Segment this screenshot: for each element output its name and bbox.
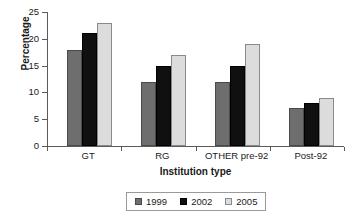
y-axis-tick-label: 20 — [28, 33, 39, 44]
y-axis-tick-label: 5 — [34, 113, 39, 124]
x-axis-tick — [47, 147, 48, 151]
bar — [245, 44, 260, 146]
bar — [67, 50, 82, 146]
bar — [289, 108, 304, 146]
y-axis-tick-label: 0 — [34, 140, 39, 151]
x-axis-category-label: GT — [82, 150, 95, 161]
y-axis-tick: 25 — [42, 12, 47, 13]
legend-entry[interactable]: 2005 — [225, 196, 257, 207]
bar — [215, 82, 230, 146]
legend-entry[interactable]: 1999 — [135, 196, 167, 207]
bar — [97, 23, 112, 146]
bar-chart: Percentage 0510152025 GTRGOTHER pre-92Po… — [0, 0, 353, 224]
bar — [141, 82, 156, 146]
bar — [230, 66, 245, 146]
bar — [156, 66, 171, 146]
x-axis-tick — [121, 147, 122, 151]
bar — [171, 55, 186, 146]
legend-swatch-icon — [180, 198, 187, 205]
legend-swatch-icon — [135, 198, 142, 205]
legend-label: 2005 — [236, 196, 257, 207]
y-axis-tick: 10 — [42, 92, 47, 93]
y-axis-tick-label: 15 — [28, 60, 39, 71]
x-axis-tick — [344, 147, 345, 151]
legend-entry[interactable]: 2002 — [180, 196, 212, 207]
bars-layer — [48, 12, 344, 146]
legend-swatch-icon — [225, 198, 232, 205]
x-axis-tick — [270, 147, 271, 151]
x-axis-category-label: RG — [155, 150, 169, 161]
plot-area: 0510152025 — [47, 12, 344, 146]
x-axis-category-label: OTHER pre-92 — [205, 150, 268, 161]
y-axis-tick: 20 — [42, 39, 47, 40]
y-axis-tick: 5 — [42, 119, 47, 120]
x-axis-category-label: Post-92 — [295, 150, 328, 161]
y-axis-tick: 15 — [42, 66, 47, 67]
x-axis-title: Institution type — [47, 166, 344, 177]
legend-label: 2002 — [191, 196, 212, 207]
y-axis-tick-label: 25 — [28, 6, 39, 17]
x-axis-tick — [196, 147, 197, 151]
bar — [304, 103, 319, 146]
legend-label: 1999 — [146, 196, 167, 207]
bar — [319, 98, 334, 146]
chart-legend: 199920022005 — [126, 192, 266, 211]
bar — [82, 33, 97, 146]
y-axis-tick-label: 10 — [28, 86, 39, 97]
